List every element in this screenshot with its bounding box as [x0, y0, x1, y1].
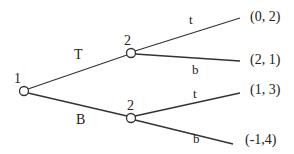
payoff-Tt: (0, 2) — [250, 10, 280, 24]
action-label-B: B — [76, 113, 85, 127]
edge-Bb — [135, 120, 233, 144]
upper-node — [127, 49, 136, 58]
action-label-T: T — [74, 48, 83, 62]
payoff-Bb: (-1,4) — [245, 133, 277, 147]
edge-Tb — [135, 54, 240, 61]
lower-node — [127, 114, 136, 123]
action-label-upper-t: t — [189, 13, 193, 26]
payoff-Tb: (2, 1) — [250, 53, 280, 67]
edge-Tt — [135, 18, 240, 51]
player-label-upper: 2 — [124, 34, 131, 48]
action-label-lower-t: t — [193, 87, 197, 100]
payoff-Bt: (1, 3) — [250, 83, 280, 97]
root-node — [20, 87, 29, 96]
player-label-root: 1 — [14, 72, 21, 86]
action-label-upper-b: b — [192, 63, 199, 76]
action-label-lower-b: b — [193, 132, 200, 145]
player-label-lower: 2 — [127, 99, 134, 113]
edge-Bt — [135, 93, 240, 116]
